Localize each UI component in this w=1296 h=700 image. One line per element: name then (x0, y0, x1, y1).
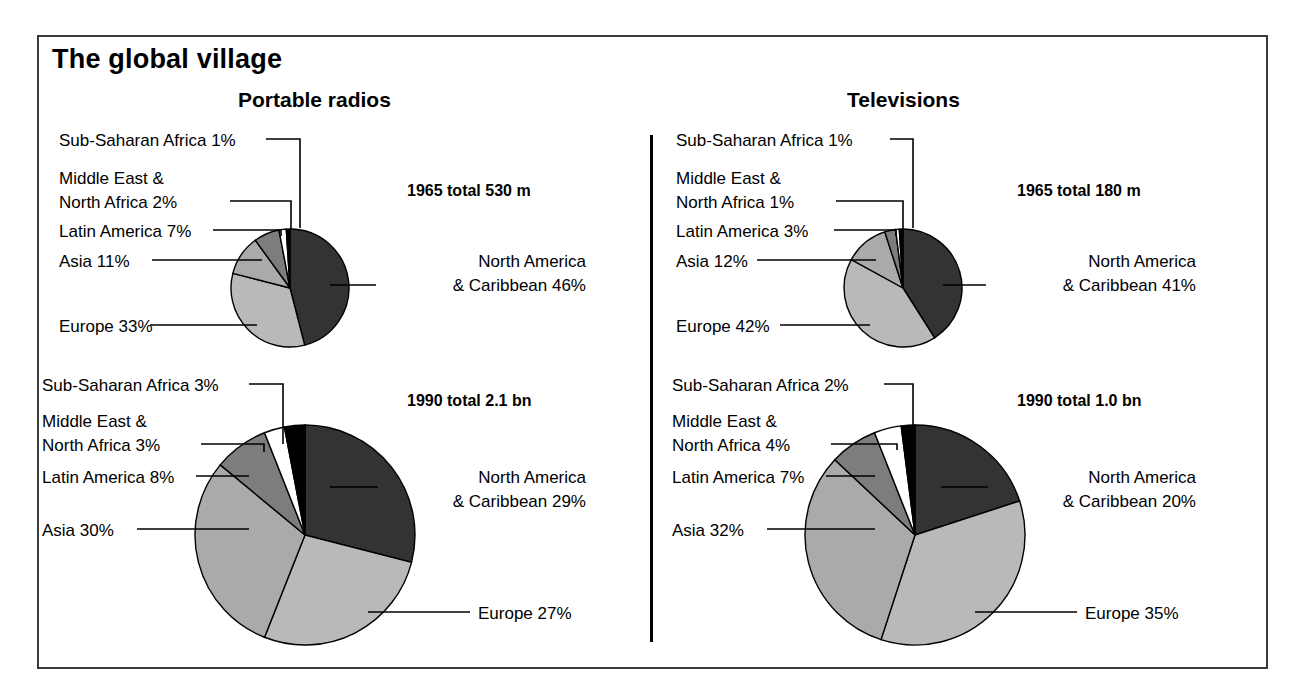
label-tv-1965-middle-east-line1: Middle East & (676, 169, 781, 189)
label-radios-1990-middle-east-line1: Middle East & (42, 412, 147, 432)
label-radios-1965-asia: Asia 11% (59, 252, 130, 272)
label-radios-1990-asia: Asia 30% (42, 521, 114, 541)
label-radios-1990-sub-saharan: Sub-Saharan Africa 3% (42, 376, 219, 396)
label-radios-1990-europe: Europe 27% (478, 604, 572, 624)
label-radios-1965-europe: Europe 33% (59, 317, 153, 337)
column-divider (650, 135, 653, 642)
column-title-portable-radios: Portable radios (238, 88, 391, 112)
total-radios-1990: 1990 total 2.1 bn (407, 392, 532, 410)
total-tv-1965: 1965 total 180 m (1017, 182, 1141, 200)
label-radios-1965-north-america-line2: & Caribbean 46% (328, 276, 586, 296)
label-radios-1990-north-america-line1: North America (328, 468, 586, 488)
label-tv-1990-asia: Asia 32% (672, 521, 744, 541)
label-tv-1990-north-america-line1: North America (938, 468, 1196, 488)
label-tv-1965-latin-america: Latin America 3% (676, 222, 808, 242)
label-tv-1965-asia: Asia 12% (676, 252, 748, 272)
column-title-televisions: Televisions (847, 88, 960, 112)
label-tv-1965-europe: Europe 42% (676, 317, 770, 337)
label-radios-1965-middle-east-line2: North Africa 2% (59, 193, 177, 213)
label-tv-1990-middle-east-line1: Middle East & (672, 412, 777, 432)
label-radios-1965-middle-east-line1: Middle East & (59, 169, 164, 189)
label-radios-1965-north-america-line1: North America (328, 252, 586, 272)
label-radios-1990-north-america-line2: & Caribbean 29% (328, 492, 586, 512)
label-tv-1990-sub-saharan: Sub-Saharan Africa 2% (672, 376, 849, 396)
label-radios-1965-latin-america: Latin America 7% (59, 222, 191, 242)
label-radios-1990-latin-america: Latin America 8% (42, 468, 174, 488)
label-tv-1990-north-america-line2: & Caribbean 20% (938, 492, 1196, 512)
total-tv-1990: 1990 total 1.0 bn (1017, 392, 1142, 410)
label-tv-1965-north-america-line2: & Caribbean 41% (938, 276, 1196, 296)
page-title: The global village (52, 44, 282, 75)
label-tv-1965-sub-saharan: Sub-Saharan Africa 1% (676, 131, 853, 151)
total-radios-1965: 1965 total 530 m (407, 182, 531, 200)
chart-page: The global village Portable radios Telev… (0, 0, 1296, 700)
label-tv-1990-latin-america: Latin America 7% (672, 468, 804, 488)
label-radios-1965-sub-saharan: Sub-Saharan Africa 1% (59, 131, 236, 151)
label-tv-1990-middle-east-line2: North Africa 4% (672, 436, 790, 456)
label-tv-1990-europe: Europe 35% (1085, 604, 1179, 624)
label-tv-1965-middle-east-line2: North Africa 1% (676, 193, 794, 213)
label-tv-1965-north-america-line1: North America (938, 252, 1196, 272)
label-radios-1990-middle-east-line2: North Africa 3% (42, 436, 160, 456)
